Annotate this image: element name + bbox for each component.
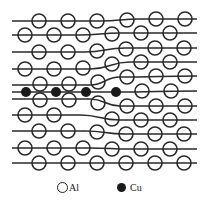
dislocation-diagram [0, 0, 210, 211]
al-atom [62, 77, 76, 91]
legend-item-cu: Cu [117, 182, 142, 193]
al-atom [91, 96, 105, 110]
open-circle-icon [57, 182, 68, 193]
legend: Al Cu [0, 182, 210, 200]
filled-circle-icon [117, 183, 126, 192]
al-atom [119, 42, 133, 56]
cu-atom [81, 87, 91, 97]
cu-atom [111, 87, 121, 97]
al-atom [33, 93, 47, 107]
al-atom [76, 61, 90, 75]
al-atom [62, 93, 76, 107]
legend-item-al: Al [57, 182, 79, 193]
cu-atom [51, 87, 61, 97]
cu-atom [21, 87, 31, 97]
legend-label-cu: Cu [130, 182, 142, 193]
al-atom [33, 77, 47, 91]
legend-label-al: Al [69, 182, 79, 193]
